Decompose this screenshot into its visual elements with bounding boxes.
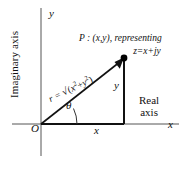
- angle-arc: [74, 109, 78, 125]
- point-p-annotation-line1: P : (x,y), representing: [79, 33, 162, 43]
- opposite-leg-label: y: [114, 80, 119, 92]
- point-p-annotation: P : (x,y), representing z=x+jy: [79, 33, 162, 58]
- real-axis-label: Real axis: [139, 94, 159, 119]
- real-axis-label-line1: Real: [139, 94, 159, 106]
- real-axis-label-line2: axis: [140, 106, 158, 118]
- x-axis-tip-label: x: [168, 119, 173, 131]
- argand-diagram-figure: Imaginary axis Real axis y x O x y θ P :…: [0, 0, 182, 170]
- point-p-annotation-line2: z=x+jy: [79, 46, 162, 58]
- imaginary-axis-label: Imaginary axis: [9, 0, 21, 22]
- imaginary-axis-label-text: Imaginary axis: [9, 31, 21, 98]
- y-axis-tip-label: y: [49, 8, 54, 20]
- origin-label: O: [31, 123, 39, 135]
- angle-theta-label: θ: [66, 100, 71, 112]
- adjacent-leg-label: x: [94, 125, 99, 137]
